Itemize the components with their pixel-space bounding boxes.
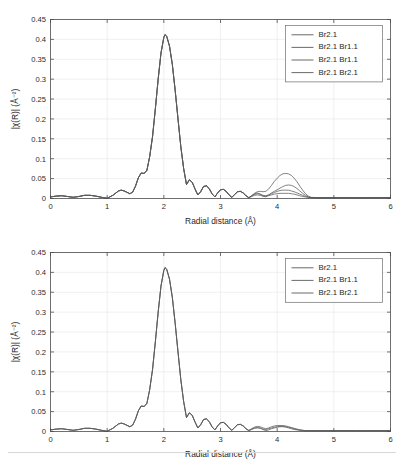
x-tick-label: 5 (332, 435, 336, 444)
x-tick-label: 4 (275, 202, 279, 211)
figure-divider-rule (8, 452, 396, 453)
legend-label: Br2.1 Br1.1 (319, 55, 358, 64)
legend-label: Br2.1 (319, 263, 338, 272)
y-tick-label: 0.15 (31, 135, 46, 144)
y-tick-label: 0 (42, 427, 46, 436)
x-axis-title: Radial distance (Å) (185, 449, 256, 459)
y-tick-label: 0.4 (35, 268, 46, 277)
legend: Br2.1Br2.1 Br1.1Br2.1 Br1.1Br2.1 Br2.1 (286, 26, 383, 82)
x-tick-label: 0 (48, 202, 52, 211)
chart-svg-bottom: 00.050.10.150.20.250.30.350.40.450123456… (0, 233, 404, 466)
x-tick-label: 6 (388, 202, 392, 211)
x-axis-title: Radial distance (Å) (185, 216, 256, 226)
legend: Br2.1Br2.1 Br1.1Br2.1 Br2.1 (286, 259, 383, 303)
legend-label: Br2.1 Br2.1 (319, 288, 358, 297)
x-tick-label: 5 (332, 202, 336, 211)
y-tick-label: 0 (42, 194, 46, 203)
chart-svg-top: 00.050.10.150.20.250.30.350.40.450123456… (0, 0, 404, 233)
figure-container: 00.050.10.150.20.250.30.350.40.450123456… (0, 0, 404, 466)
y-tick-label: 0.05 (31, 174, 46, 183)
y-tick-label: 0.35 (31, 288, 46, 297)
y-tick-label: 0.3 (35, 308, 46, 317)
x-tick-label: 3 (218, 202, 222, 211)
chart-panel-top: 00.050.10.150.20.250.30.350.40.450123456… (0, 0, 404, 233)
y-tick-label: 0.45 (31, 15, 46, 24)
y-tick-label: 0.05 (31, 407, 46, 416)
x-tick-label: 1 (105, 435, 109, 444)
chart-panel-bottom: 00.050.10.150.20.250.30.350.40.450123456… (0, 233, 404, 466)
x-tick-label: 2 (162, 435, 166, 444)
y-tick-label: 0.2 (35, 348, 46, 357)
x-tick-label: 0 (48, 435, 52, 444)
y-axis-title: |χ(R)| (Å⁻²) (10, 321, 20, 362)
y-tick-label: 0.4 (35, 35, 46, 44)
y-tick-label: 0.45 (31, 248, 46, 257)
y-tick-label: 0.25 (31, 328, 46, 337)
y-axis-title: |χ(R)| (Å⁻²) (10, 88, 20, 129)
x-tick-label: 1 (105, 202, 109, 211)
x-tick-label: 4 (275, 435, 279, 444)
y-tick-label: 0.35 (31, 55, 46, 64)
y-tick-label: 0.1 (35, 155, 46, 164)
y-tick-label: 0.15 (31, 368, 46, 377)
x-tick-label: 2 (162, 202, 166, 211)
x-tick-label: 3 (218, 435, 222, 444)
legend-label: Br2.1 Br2.1 (319, 68, 358, 77)
x-tick-label: 6 (388, 435, 392, 444)
y-tick-label: 0.3 (35, 75, 46, 84)
y-tick-label: 0.25 (31, 95, 46, 104)
y-tick-label: 0.2 (35, 115, 46, 124)
legend-label: Br2.1 Br1.1 (319, 42, 358, 51)
legend-label: Br2.1 Br1.1 (319, 275, 358, 284)
y-tick-label: 0.1 (35, 388, 46, 397)
legend-label: Br2.1 (319, 30, 338, 39)
